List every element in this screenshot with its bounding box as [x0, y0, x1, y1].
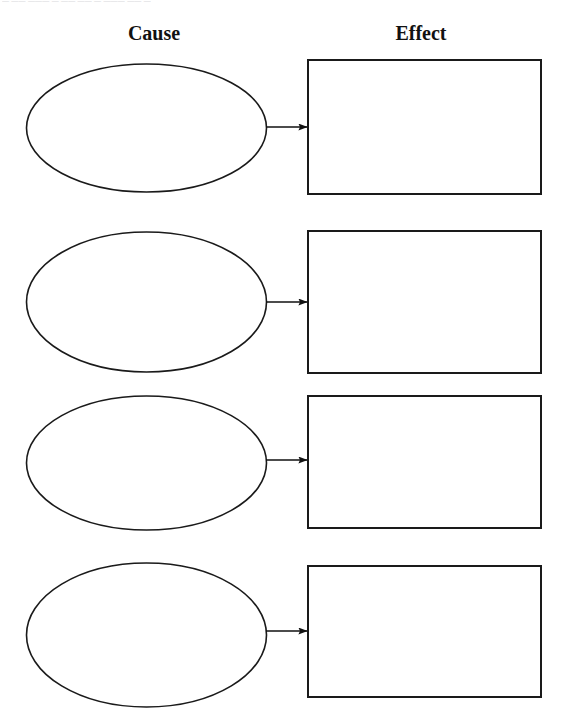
diagram-rows — [27, 60, 542, 707]
effect-box-1[interactable] — [308, 60, 541, 194]
cause-effect-diagram — [0, 0, 562, 717]
cause-ellipse-4[interactable] — [27, 563, 267, 707]
cause-ellipse-1[interactable] — [27, 64, 267, 192]
cause-ellipse-2[interactable] — [27, 232, 267, 372]
organizer-row — [27, 396, 542, 530]
organizer-row — [27, 563, 542, 707]
worksheet-page: — —— ——— — —— —— — ——— —— — Cause Effect — [0, 0, 562, 717]
effect-box-2[interactable] — [308, 231, 541, 373]
effect-box-3[interactable] — [308, 396, 541, 528]
organizer-row — [27, 231, 542, 373]
cause-ellipse-3[interactable] — [27, 396, 267, 530]
organizer-row — [27, 60, 542, 194]
effect-box-4[interactable] — [308, 566, 541, 697]
